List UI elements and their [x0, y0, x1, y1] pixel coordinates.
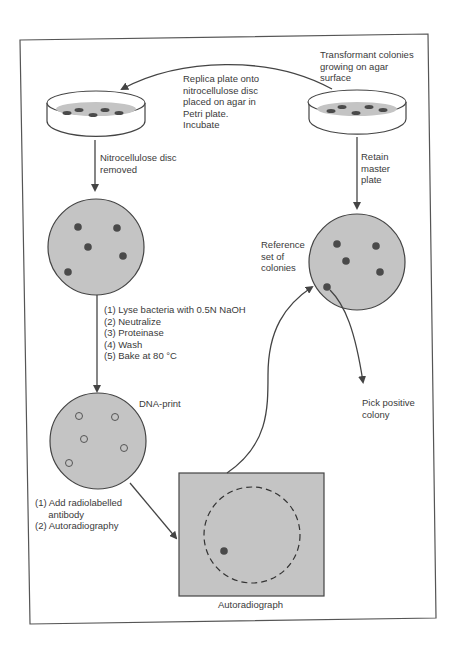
master-petri-dish [308, 90, 406, 134]
reference-set-label: Reference set of colonies [261, 239, 305, 274]
dna-print-label: DNA-print [139, 398, 181, 410]
antibody-steps-label: (1) Add radiolabelled antibody (2) Autor… [35, 497, 122, 532]
retain-master-label: Retain master plate [361, 151, 390, 186]
positive-spot [220, 547, 228, 555]
replica-petri-dish [47, 91, 145, 136]
transformant-label: Transformant colonies growing on agar su… [320, 49, 414, 84]
pick-positive-label: Pick positive colony [362, 397, 415, 420]
nitro-removed-label: Nitrocellulose disc removed [100, 152, 177, 175]
nitrocellulose-disc [48, 199, 144, 295]
dna-print-disc [50, 393, 146, 489]
processing-steps-label: (1) Lyse bacteria with 0.5N NaOH (2) Neu… [104, 304, 246, 362]
autoradiography-arrow [130, 483, 176, 538]
autoradiograph-film [179, 473, 324, 596]
reference-disc [309, 214, 405, 310]
autoradiograph-label: Autoradiograph [218, 599, 283, 611]
replica-label: Replica plate onto nitrocellulose disc p… [183, 73, 259, 131]
